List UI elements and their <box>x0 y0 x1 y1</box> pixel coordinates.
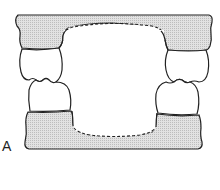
lower-right-tooth <box>156 79 199 114</box>
edentulous-space <box>64 30 164 110</box>
dental-diagram <box>0 0 220 190</box>
figure-label: A <box>2 138 11 154</box>
upper-left-tooth <box>20 48 62 83</box>
upper-right-tooth <box>165 50 208 83</box>
lower-left-tooth <box>29 79 71 112</box>
lower-edentulous-area <box>73 110 156 137</box>
